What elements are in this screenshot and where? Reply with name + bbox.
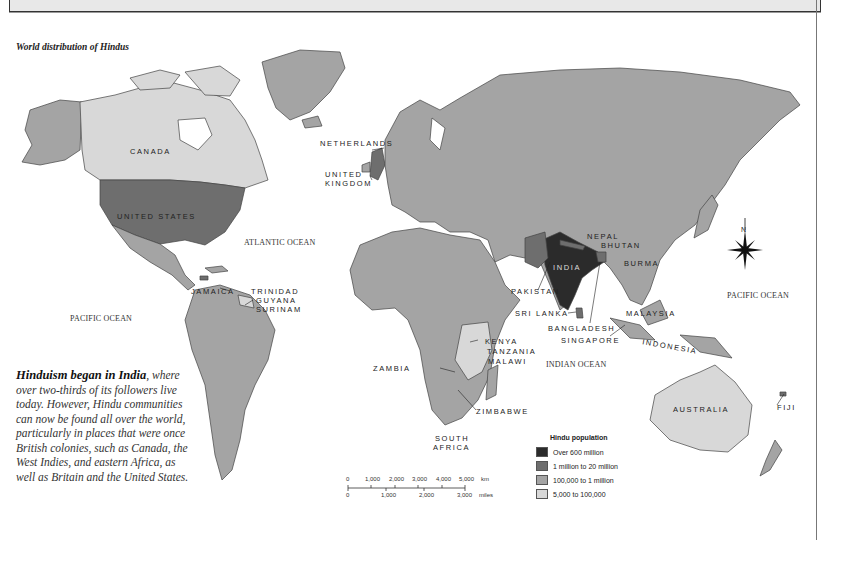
scale-km-unit: km: [481, 476, 489, 482]
scale-mi-unit: miles: [479, 492, 493, 498]
scale-mi-1000: 1,000: [381, 492, 396, 498]
compass-north-label: N: [741, 226, 746, 233]
label-india: INDIA: [553, 263, 581, 272]
legend-label: Over 600 million: [553, 449, 604, 456]
legend: Hindu population Over 600 million 1 mill…: [536, 434, 618, 501]
label-burma: BURMA: [624, 259, 659, 268]
label-malawi: MALAWI: [488, 357, 527, 366]
legend-item: Over 600 million: [536, 445, 618, 459]
label-singapore: SINGAPORE: [561, 336, 620, 345]
label-nepal: NEPAL: [587, 232, 619, 241]
label-zambia: ZAMBIA: [373, 364, 411, 373]
ocean-label-pacific-west: PACIFIC OCEAN: [70, 314, 132, 323]
label-united-kingdom-1: UNITED: [325, 170, 363, 179]
label-bhutan: BHUTAN: [601, 241, 641, 250]
label-canada: CANADA: [130, 147, 171, 156]
legend-label: 5,000 to 100,000: [553, 491, 606, 498]
canada: [80, 82, 268, 188]
label-united-states: UNITED STATES: [117, 212, 196, 221]
legend-item: 5,000 to 100,000: [536, 487, 618, 501]
legend-swatch-100k-1m: [536, 475, 548, 485]
caption: Hinduism began in India, where over two-…: [16, 368, 196, 484]
scale-km-1000: 1,000: [365, 476, 380, 482]
scale-km-5000: 5,000: [459, 476, 474, 482]
scale-mi-3000: 3,000: [457, 492, 472, 498]
label-united-kingdom-2: KINGDOM: [325, 179, 372, 188]
label-jamaica: JAMAICA: [191, 287, 235, 296]
label-zimbabwe: ZIMBABWE: [476, 407, 529, 416]
label-fiji: FIJI: [777, 403, 796, 412]
scale-km-2000: 2,000: [389, 476, 404, 482]
label-south-africa-1: SOUTH: [435, 434, 469, 443]
legend-item: 100,000 to 1 million: [536, 473, 618, 487]
legend-swatch-5k-100k: [536, 489, 548, 499]
label-kenya: KENYA: [485, 337, 518, 346]
ocean-label-indian: INDIAN OCEAN: [546, 360, 606, 369]
caption-lead: Hinduism began in India: [16, 368, 146, 382]
label-malaysia: MALAYSIA: [626, 309, 676, 318]
label-south-africa-2: AFRICA: [433, 443, 470, 452]
scale-km-3000: 3,000: [412, 476, 427, 482]
scale-km-0: 0: [346, 476, 349, 482]
greenland: [262, 50, 345, 120]
scale-mi-0: 0: [346, 492, 349, 498]
label-sri-lanka: SRI LANKA: [515, 309, 569, 318]
legend-title: Hindu population: [550, 434, 618, 441]
legend-label: 100,000 to 1 million: [553, 477, 614, 484]
label-australia: AUSTRALIA: [673, 405, 729, 414]
label-bangladesh: BANGLADESH: [548, 324, 615, 333]
ocean-label-atlantic: ATLANTIC OCEAN: [244, 238, 315, 247]
label-netherlands: NETHERLANDS: [320, 139, 393, 148]
label-guyana: GUYANA: [256, 296, 297, 305]
legend-swatch-1m-20m: [536, 461, 548, 471]
caption-body: , where over two-thirds of its followers…: [16, 369, 188, 483]
scale-km-4000: 4,000: [436, 476, 451, 482]
ocean-label-pacific-east: PACIFIC OCEAN: [727, 291, 789, 300]
label-tanzania: TANZANIA: [487, 347, 536, 356]
alaska: [22, 100, 82, 165]
sri-lanka: [576, 308, 583, 318]
scale-mi-2000: 2,000: [419, 492, 434, 498]
legend-swatch-over-600m: [536, 447, 548, 457]
legend-label: 1 million to 20 million: [553, 463, 618, 470]
south-america: [185, 285, 275, 480]
label-trinidad: TRINIDAD: [251, 287, 299, 296]
united-kingdom: [370, 148, 385, 180]
label-pakistan: PAKISTAN: [511, 287, 560, 296]
legend-item: 1 million to 20 million: [536, 459, 618, 473]
label-surinam: SURINAM: [256, 305, 302, 314]
